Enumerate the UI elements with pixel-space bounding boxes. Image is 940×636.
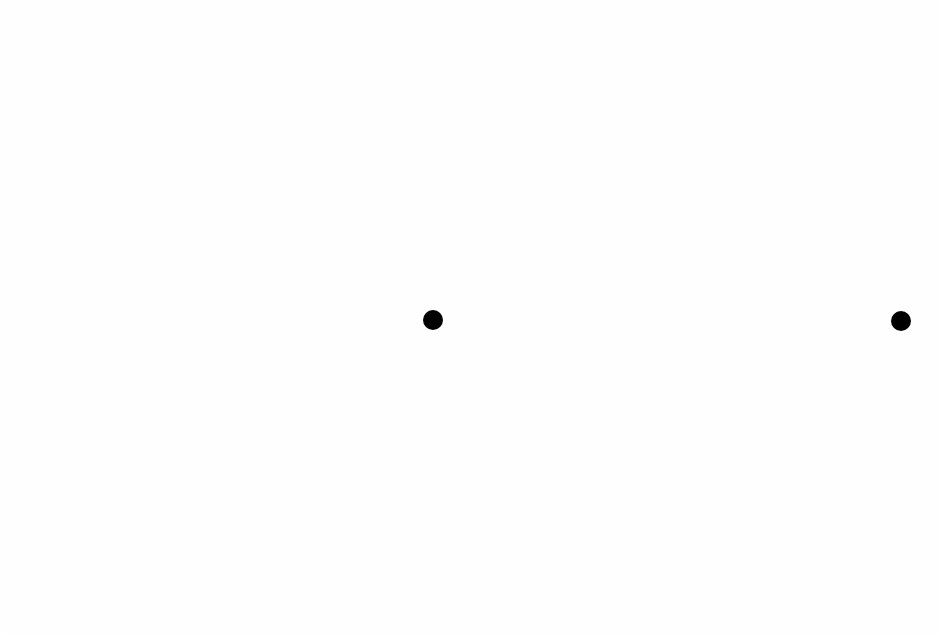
dot-right [891,311,911,331]
dot-left [423,310,443,330]
blank-page [0,0,940,636]
